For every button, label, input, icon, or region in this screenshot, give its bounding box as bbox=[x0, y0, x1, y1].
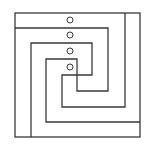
spiral-diagram bbox=[0, 0, 150, 145]
spiral-path-b bbox=[15, 28, 140, 122]
circle-marker bbox=[67, 48, 73, 54]
spiral-path-a bbox=[31, 13, 125, 137]
circle-marker bbox=[67, 32, 73, 38]
circle-marker bbox=[67, 64, 73, 70]
circle-marker bbox=[67, 17, 73, 23]
